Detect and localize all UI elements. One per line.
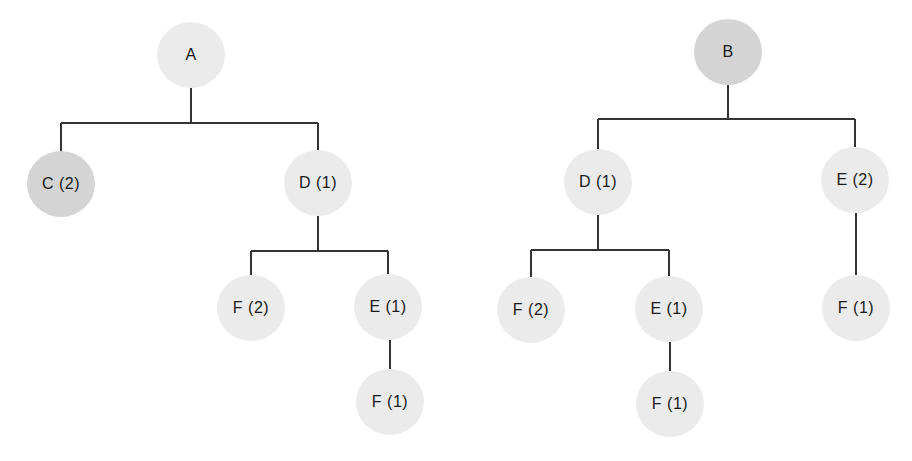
edge-drop: [250, 251, 252, 275]
edge-bar: [531, 249, 669, 251]
tree-node: F (2): [217, 275, 285, 341]
tree-node: C (2): [27, 151, 95, 217]
tree-node: F (1): [636, 371, 704, 437]
tree-node: F (1): [356, 369, 424, 435]
edge-stem: [727, 85, 729, 119]
edge-bar: [251, 250, 388, 252]
edge-line: [855, 213, 857, 275]
tree-node: E (1): [354, 274, 422, 340]
fp-tree-diagram: AC (2)D (1)F (2)E (1)F (1)BD (1)E (2)F (…: [0, 0, 912, 461]
tree-node: E (2): [821, 147, 889, 213]
edge-line: [669, 342, 671, 371]
edge-drop: [387, 251, 389, 274]
tree-node: E (1): [635, 276, 703, 342]
edge-drop: [597, 119, 599, 149]
tree-node: D (1): [564, 149, 632, 215]
edge-drop: [317, 123, 319, 150]
edge-bar: [598, 118, 855, 120]
edge-stem: [317, 216, 319, 251]
edge-drop: [854, 119, 856, 147]
tree-node: F (1): [822, 275, 890, 341]
edge-drop: [60, 123, 62, 151]
edge-drop: [668, 250, 670, 276]
edge-bar: [61, 122, 318, 124]
tree-node: A: [157, 22, 225, 88]
tree-node: D (1): [284, 150, 352, 216]
edge-stem: [190, 88, 192, 123]
tree-node: F (2): [497, 277, 565, 343]
edge-drop: [530, 250, 532, 277]
edge-line: [389, 340, 391, 369]
edge-stem: [597, 215, 599, 250]
tree-node: B: [694, 19, 762, 85]
